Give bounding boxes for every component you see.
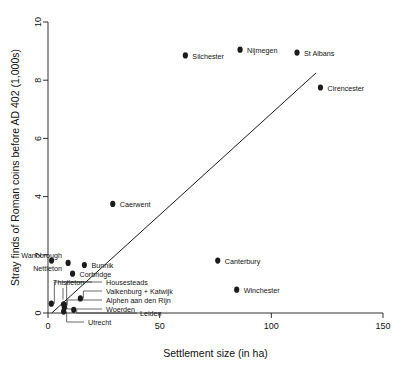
data-point-marker <box>294 49 299 55</box>
plot-canvas: 0501001500246810 SilchesterNijmegenSt Al… <box>0 0 403 376</box>
x-tick-label: 0 <box>45 321 50 331</box>
y-tick-label: 8 <box>33 78 43 83</box>
data-point-marker <box>110 201 115 207</box>
data-point-marker <box>66 260 71 266</box>
point-label: Winchester <box>244 286 281 295</box>
point-label: Caerwent <box>120 200 151 209</box>
data-point-marker <box>61 308 66 314</box>
x-tick-label: 50 <box>155 321 165 331</box>
axes: 0501001500246810 <box>33 17 391 331</box>
data-point-marker <box>70 271 75 277</box>
point-label: Canterbury <box>225 257 261 266</box>
x-tick-label: 100 <box>264 321 279 331</box>
scatter-plot-figure: 0501001500246810 SilchesterNijmegenSt Al… <box>0 0 403 376</box>
data-point-marker <box>234 287 239 293</box>
point-label: Nijmegen <box>247 46 277 55</box>
point-label: Utrecht <box>88 318 111 327</box>
data-point-labels: SilchesterNijmegenSt AlbansCirencesterCa… <box>21 46 365 327</box>
data-point-marker <box>82 262 87 268</box>
data-point-marker <box>237 47 242 53</box>
y-axis-title: Stray finds of Roman coins before AD 402… <box>9 49 21 286</box>
point-label: Nettleton <box>33 264 62 273</box>
data-point-marker <box>318 84 323 90</box>
point-label: Silchester <box>192 52 224 61</box>
label-leader-line <box>83 291 102 298</box>
x-tick-label: 150 <box>375 321 390 331</box>
point-label: Housesteads <box>106 278 148 287</box>
point-label: Leiden <box>140 309 162 318</box>
point-label: Woerden <box>106 305 135 314</box>
data-point-marker <box>71 307 76 313</box>
y-tick-label: 10 <box>33 17 43 27</box>
point-label: Alphen aan den Rijn <box>106 296 171 305</box>
data-point-marker <box>215 258 220 264</box>
point-label: Cirencester <box>327 84 364 93</box>
point-label: Thistleton <box>53 278 84 287</box>
point-label: Bunnik <box>91 261 113 270</box>
point-label: Wanborough <box>21 251 62 260</box>
y-tick-label: 4 <box>33 194 43 199</box>
point-label: Valkenburg + Katwijk <box>106 287 173 296</box>
y-tick-label: 0 <box>33 310 43 315</box>
label-leader-line <box>67 300 102 305</box>
x-axis-title: Settlement size (in ha) <box>163 347 267 359</box>
y-tick-label: 6 <box>33 136 43 141</box>
data-point-marker <box>49 301 54 307</box>
data-point-marker <box>183 52 188 58</box>
data-point-marker <box>78 295 83 301</box>
point-label: St Albans <box>304 49 335 58</box>
